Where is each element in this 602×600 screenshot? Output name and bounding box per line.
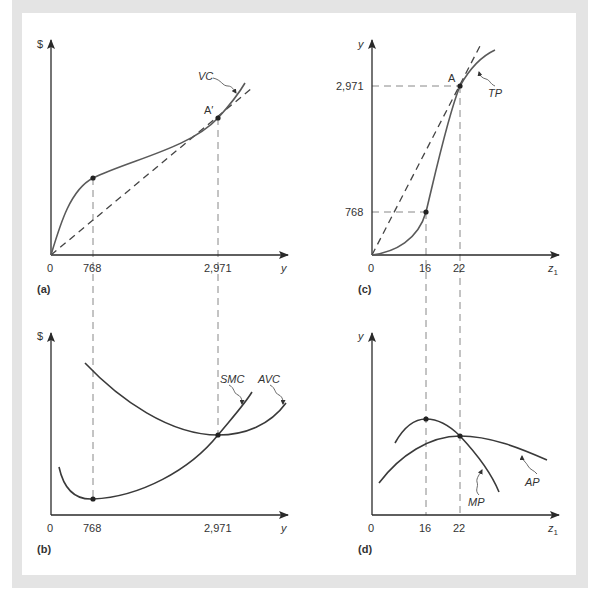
mp-label: MP — [468, 496, 485, 508]
avc-curve — [85, 363, 286, 435]
smc-minimum-point — [90, 496, 95, 501]
guide-lines — [93, 86, 460, 515]
panel-b: SMC AVC $ y 0 768 2,971 (b) — [37, 330, 288, 555]
inflection-point — [90, 175, 95, 180]
tick-768: 768 — [83, 262, 101, 274]
tick-16: 16 — [419, 262, 431, 274]
y-axis-label: $ — [37, 38, 43, 50]
point-a-label: A — [448, 72, 456, 84]
point-a-prime-label: A′ — [204, 104, 213, 116]
figure-svg: VC A′ $ y 0 768 2,971 (a) A TP y 2,971 7… — [0, 0, 602, 600]
x-axis-label: z1 — [547, 262, 559, 277]
x-axis-label: y — [280, 262, 288, 274]
y-axis-label: $ — [37, 330, 43, 342]
panel-label-b: (b) — [37, 543, 51, 555]
panel-label-c: (c) — [358, 283, 372, 295]
vc-curve — [51, 83, 245, 255]
mp-maximum-point — [423, 416, 428, 421]
mp-curve — [395, 419, 499, 492]
tp-label: TP — [488, 87, 503, 99]
x-axis-label: z1 — [547, 522, 559, 537]
tp-curve — [372, 50, 495, 255]
panel-c: A TP y 2,971 768 0 16 22 z1 (c) — [336, 38, 559, 295]
point-a — [457, 83, 462, 88]
ap-label: AP — [524, 476, 540, 488]
origin-label: 0 — [368, 262, 374, 274]
avc-minimum-point — [215, 432, 220, 437]
tick-768: 768 — [345, 206, 363, 218]
y-axis-label: y — [357, 38, 365, 50]
tick-768: 768 — [83, 522, 101, 534]
ray-from-origin — [372, 44, 481, 255]
point-a-prime — [215, 115, 220, 120]
tick-22: 22 — [453, 522, 465, 534]
tick-2971: 2,971 — [204, 522, 232, 534]
ap-curve — [379, 436, 547, 483]
smc-curve — [59, 392, 252, 499]
y-axis-label: y — [357, 330, 365, 342]
smc-label: SMC — [220, 373, 245, 385]
x-axis-label: y — [280, 522, 288, 534]
vc-label: VC — [198, 70, 213, 82]
tick-22: 22 — [453, 262, 465, 274]
origin-label: 0 — [47, 262, 53, 274]
ap-maximum-point — [457, 433, 462, 438]
avc-label: AVC — [257, 373, 280, 385]
origin-label: 0 — [368, 522, 374, 534]
inflection-point — [423, 209, 428, 214]
panel-d: MP AP y 0 16 22 z1 (d) — [357, 330, 559, 555]
tick-16: 16 — [419, 522, 431, 534]
panel-label-d: (d) — [358, 543, 372, 555]
panel-label-a: (a) — [37, 283, 51, 295]
panel-a: VC A′ $ y 0 768 2,971 (a) — [37, 38, 288, 295]
origin-label: 0 — [47, 522, 53, 534]
tick-2971: 2,971 — [336, 80, 364, 92]
tick-2971: 2,971 — [204, 262, 232, 274]
